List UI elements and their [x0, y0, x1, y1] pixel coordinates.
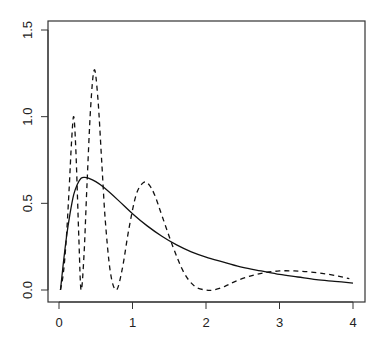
y-tick-label: 1.0 [20, 108, 35, 126]
y-tick-label: 0.5 [20, 194, 35, 212]
series-group [60, 70, 353, 291]
x-tick-label: 3 [276, 315, 283, 330]
y-tick-label: 0.0 [20, 281, 35, 299]
x-tick-label: 2 [202, 315, 209, 330]
y-axis: 0.00.51.01.5 [20, 21, 48, 299]
y-tick-label: 1.5 [20, 21, 35, 39]
x-axis: 01234 [55, 302, 356, 330]
plot-frame [48, 21, 365, 302]
solid-series-line [60, 177, 353, 290]
line-chart: 01234 0.00.51.01.5 [0, 0, 384, 351]
x-tick-label: 0 [55, 315, 62, 330]
x-tick-label: 4 [349, 315, 356, 330]
x-tick-label: 1 [129, 315, 136, 330]
